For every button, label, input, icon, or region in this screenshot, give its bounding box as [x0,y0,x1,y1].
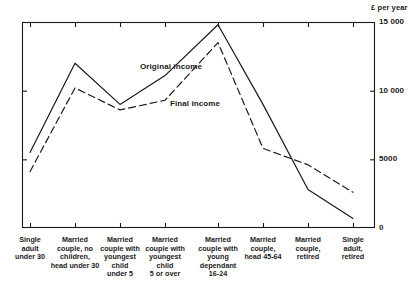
x-axis-category-label-8: Single adult, retired [328,236,378,262]
x-axis-category-label-4: Married couple with youngest child 5 or … [140,236,190,279]
series-line-original-income [30,25,353,219]
y-axis-tick-label-10000: 10 000 [379,86,404,95]
y-axis-tick-label-5000: 5000 [379,154,397,163]
series-annotation-2: Final income [170,99,220,109]
plot-frame [23,23,375,228]
y-axis-unit-label: £ per year [371,3,407,12]
y-axis-tick-label-0: 0 [379,223,384,232]
x-axis-category-label-6: Married couple, head 45-64 [238,236,288,262]
y-axis-tick-label-15000: 15 000 [379,17,404,26]
series-annotation-1: Original income [140,62,202,72]
x-axis-category-label-2: Married couple, no children, head under … [50,236,100,270]
income-by-household-type-chart: £ per year 0500010 00015 000 Original in… [0,0,417,283]
x-axis-category-label-7: Married couple, retired [283,236,333,262]
x-axis-category-label-5: Married couple with young dependant 16-2… [193,236,243,279]
x-axis-category-label-1: Single adult under 30 [5,236,55,262]
x-axis-category-label-3: Married couple with youngest child under… [95,236,145,279]
